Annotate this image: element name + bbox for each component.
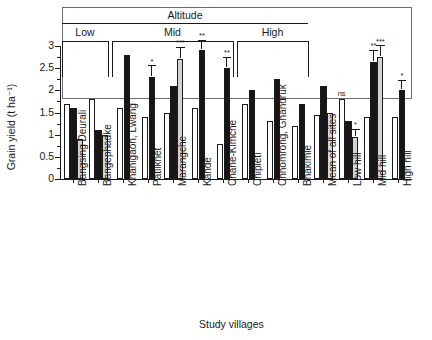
x-tick-mark	[73, 179, 74, 183]
x-tick-mark	[123, 179, 124, 183]
altitude-label: Altitude	[62, 9, 308, 21]
x-tick-mark	[173, 179, 174, 183]
x-tick-mark	[373, 179, 374, 183]
x-tick-mark	[148, 179, 149, 183]
y-tick-label: 1.5	[28, 107, 54, 118]
bar-white	[392, 117, 398, 179]
significance-marker: ***	[372, 38, 388, 45]
x-tick-label: Chane-Kimche	[227, 120, 238, 186]
altitude-band-rule	[62, 41, 108, 42]
x-tick-mark	[198, 179, 199, 183]
y-tick-label: 1	[28, 129, 54, 140]
y-tick-label: 2.5	[28, 62, 54, 73]
y-tick-label: 0	[28, 173, 54, 184]
x-tick-mark	[398, 179, 399, 183]
x-tick-label: High hill	[402, 150, 413, 186]
x-tick-label: Mean of all sites	[327, 114, 338, 186]
x-tick-label: Patlikhet	[152, 148, 163, 186]
significance-marker: **	[194, 32, 210, 39]
x-tick-label: Bhakimle	[302, 145, 313, 186]
x-tick-label: Bangsing Deurali	[77, 110, 88, 186]
altitude-band-label: High	[237, 26, 308, 38]
x-tick-mark	[223, 179, 224, 183]
x-tick-label: Chhomrong, Ghandruk	[277, 84, 288, 186]
y-tick-label: 0.5	[28, 151, 54, 162]
x-tick-label: Chipleti	[252, 153, 263, 186]
x-tick-label: Bangephadke	[102, 124, 113, 186]
y-tick-label: 3	[28, 40, 54, 51]
significance-marker: *	[394, 72, 410, 79]
x-tick-mark	[98, 179, 99, 183]
x-tick-label: Marangche	[177, 136, 188, 186]
x-tick-mark	[248, 179, 249, 183]
altitude-band-label: Low	[62, 26, 108, 38]
x-tick-label: Mid hill	[377, 155, 388, 186]
x-tick-label: Kande	[202, 157, 213, 186]
altitude-band-rule	[237, 41, 308, 42]
x-tick-mark	[298, 179, 299, 183]
altitude-rule	[62, 23, 308, 24]
y-tick-label: 2	[28, 84, 54, 95]
x-axis-title: Study villages	[199, 318, 264, 330]
y-axis-title-text: Grain yield (t ha⁻¹)	[5, 84, 17, 171]
x-tick-label: Low hill	[352, 153, 363, 186]
error-bar	[398, 80, 407, 90]
altitude-band-label: Mid	[112, 26, 233, 38]
x-tick-label: Khanigaon, Lwang	[127, 103, 138, 186]
figure-grain-yield: Grain yield (t ha⁻¹) 00.511.522.53 Altit…	[0, 0, 432, 340]
x-tick-mark	[348, 179, 349, 183]
y-axis-title: Grain yield (t ha⁻¹)	[2, 62, 20, 192]
x-tick-mark	[323, 179, 324, 183]
x-tick-mark	[273, 179, 274, 183]
